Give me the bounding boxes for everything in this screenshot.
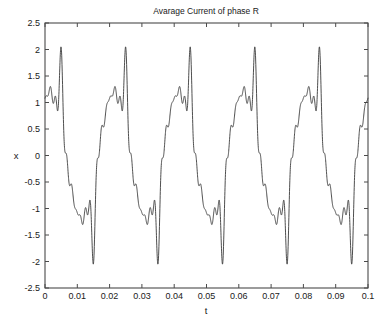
x-tick-label: 0.03 [133, 291, 151, 301]
y-tick-label: 0.5 [27, 124, 40, 134]
y-tick-label: 2.5 [27, 18, 40, 28]
y-tick-label: 0 [35, 151, 40, 161]
y-tick-label: -2.5 [24, 283, 40, 293]
x-tick-label: 0.07 [262, 291, 280, 301]
x-tick-label: 0.08 [295, 291, 313, 301]
x-tick-label: 0.09 [327, 291, 345, 301]
x-tick-label: 0.01 [69, 291, 87, 301]
y-tick-label: 1.5 [27, 71, 40, 81]
y-tick-label: -2 [32, 257, 40, 267]
x-tick-label: 0.04 [165, 291, 183, 301]
y-tick-label: -1 [32, 204, 40, 214]
y-tick-label: 1 [35, 98, 40, 108]
y-tick-label: -1.5 [24, 230, 40, 240]
chart-title: Avarage Current of phase R [153, 6, 259, 16]
x-axis-label: t [205, 305, 208, 316]
y-axis-label: x [14, 150, 19, 161]
y-tick-label: -0.5 [24, 177, 40, 187]
x-tick-label: 0.02 [101, 291, 119, 301]
y-tick-label: 2 [35, 45, 40, 55]
x-tick-label: 0 [42, 291, 47, 301]
x-tick-label: 0.1 [362, 291, 375, 301]
x-tick-label: 0.05 [198, 291, 216, 301]
x-tick-label: 0.06 [230, 291, 248, 301]
chart-figure: Avarage Current of phase R 00.010.020.03… [0, 0, 381, 330]
